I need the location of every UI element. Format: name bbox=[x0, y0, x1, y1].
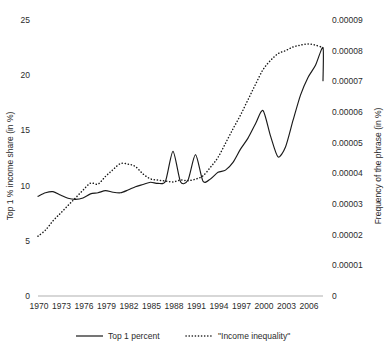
x-axis-tick-label: 1991 bbox=[187, 301, 206, 311]
x-axis-tick-label: 1979 bbox=[97, 301, 116, 311]
right-axis-tick-label: 0.00009 bbox=[332, 15, 363, 25]
right-axis-tick-label: 0.00001 bbox=[332, 260, 363, 270]
legend-label-income-inequality: "Income inequality" bbox=[218, 331, 290, 341]
right-axis-tick-label: 0.00003 bbox=[332, 199, 363, 209]
dual-axis-line-chart: 051015202500.000010.000020.000030.000040… bbox=[0, 0, 388, 353]
right-axis-tick-label: 0.00007 bbox=[332, 76, 363, 86]
x-axis-tick-label: 1973 bbox=[52, 301, 71, 311]
right-axis-title: Frequency of the phrase (in %) bbox=[373, 107, 383, 224]
left-axis-tick-label: 5 bbox=[25, 236, 30, 246]
left-axis-tick-label: 25 bbox=[21, 15, 31, 25]
left-axis-tick-label: 15 bbox=[21, 125, 31, 135]
x-axis-tick-label: 2000 bbox=[255, 301, 274, 311]
right-axis-tick-label: 0.00004 bbox=[332, 168, 363, 178]
series-line-income-inequality bbox=[38, 44, 323, 236]
left-axis-tick-label: 0 bbox=[25, 291, 30, 301]
chart-container: 051015202500.000010.000020.000030.000040… bbox=[0, 0, 388, 353]
right-axis-tick-label: 0.00008 bbox=[332, 46, 363, 56]
x-axis-tick-label: 1994 bbox=[210, 301, 229, 311]
left-axis-title: Top 1 % income share (in %) bbox=[5, 112, 15, 221]
right-axis-tick-label: 0.00005 bbox=[332, 138, 363, 148]
x-axis-tick-label: 1982 bbox=[120, 301, 139, 311]
right-axis-tick-label: 0 bbox=[332, 291, 337, 301]
x-axis-tick-label: 1970 bbox=[30, 301, 49, 311]
x-axis-tick-label: 2006 bbox=[300, 301, 319, 311]
right-axis-tick-label: 0.00002 bbox=[332, 230, 363, 240]
x-axis-tick-label: 1976 bbox=[75, 301, 94, 311]
x-axis-tick-label: 1985 bbox=[142, 301, 161, 311]
x-axis-tick-label: 1997 bbox=[232, 301, 251, 311]
x-axis-tick-label: 1988 bbox=[165, 301, 184, 311]
right-axis-tick-label: 0.00006 bbox=[332, 107, 363, 117]
series-line-top-1-percent bbox=[38, 47, 323, 199]
left-axis-tick-label: 10 bbox=[21, 181, 31, 191]
legend-label-top-1-percent: Top 1 percent bbox=[108, 331, 160, 341]
x-axis-tick-label: 2003 bbox=[277, 301, 296, 311]
left-axis-tick-label: 20 bbox=[21, 70, 31, 80]
